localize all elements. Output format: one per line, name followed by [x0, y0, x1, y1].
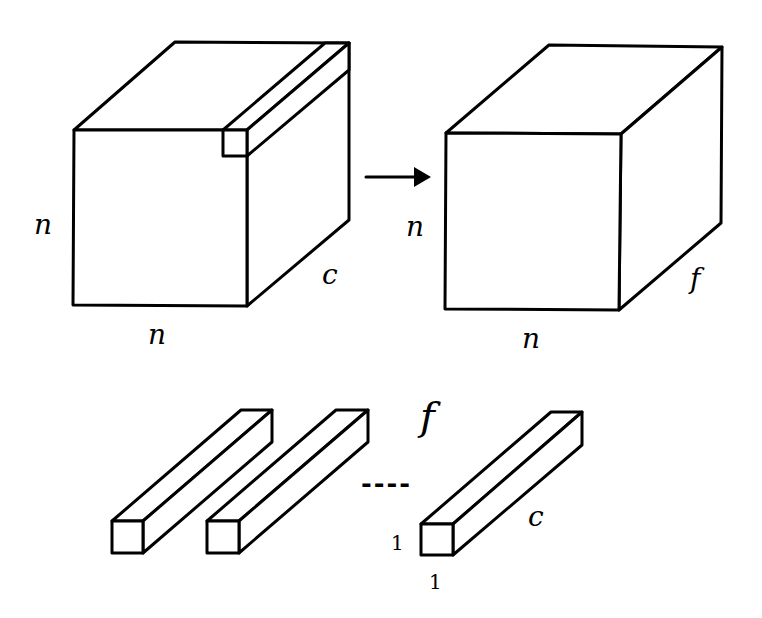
- filter-count-label: f: [417, 393, 441, 439]
- output-volume: [445, 45, 722, 310]
- input-depth-label: c: [322, 258, 338, 291]
- diagram-canvas: n n c n n f ---- f 1 1 c: [0, 0, 762, 618]
- input-width-label: n: [148, 318, 166, 351]
- filter-depth-label: c: [528, 500, 544, 533]
- filter-f: [421, 412, 582, 555]
- input-height-label: n: [34, 208, 52, 241]
- filter-width-label: 1: [429, 570, 442, 594]
- output-width-label: n: [522, 322, 540, 355]
- filter-height-label: 1: [391, 531, 404, 555]
- input-volume: [73, 42, 349, 306]
- output-depth-label: f: [688, 262, 705, 295]
- filters-ellipsis: ----: [361, 468, 412, 498]
- arrow-right-icon: [366, 167, 431, 187]
- output-height-label: n: [406, 210, 424, 243]
